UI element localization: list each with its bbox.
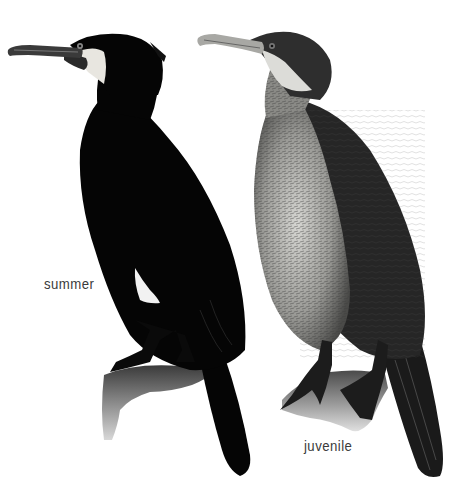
cormorant-illustration	[0, 0, 462, 502]
juvenile-label: juvenile	[304, 437, 352, 454]
illustration-canvas: summer juvenile	[0, 0, 462, 502]
summer-cormorant	[8, 34, 251, 476]
summer-perch-rock	[102, 365, 214, 440]
summer-label: summer	[44, 275, 94, 292]
summer-tail	[200, 355, 250, 476]
